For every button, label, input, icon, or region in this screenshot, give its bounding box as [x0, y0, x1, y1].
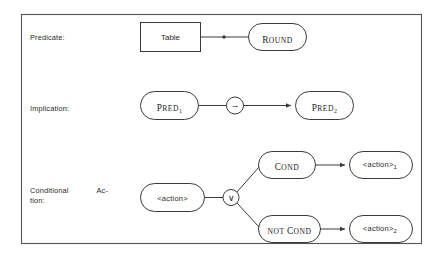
row-label-conditional-word1: Conditional [30, 186, 69, 196]
node-label-cond-cap: C [275, 162, 282, 172]
node-label-action-2: <action>2 [363, 224, 397, 234]
row-label-conditional-word3: tion: [30, 196, 114, 206]
node-label-action-2-text: <action> [363, 224, 394, 233]
edge-or-notcond [237, 203, 259, 227]
edge-marker-dot [222, 35, 225, 38]
node-label-not-cond: NOT COND [268, 220, 312, 238]
figure-container: Predicate: Implication: Conditional Ac- … [0, 0, 440, 258]
node-label-cond-rest: OND [281, 163, 299, 172]
node-label-round-rest: OUND [269, 36, 293, 45]
node-label-action-2-subscript: 2 [394, 228, 398, 234]
node-label-round: ROUND [262, 29, 293, 47]
node-label-round-cap: R [262, 35, 269, 45]
node-label-table: Table [161, 33, 180, 42]
row-label-conditional-action: Conditional Ac- tion: [30, 186, 114, 205]
node-label-pred1-subscript: 1 [179, 108, 182, 114]
implication-arrow-icon: → [231, 100, 240, 110]
node-label-pred1-rest: RED [162, 104, 179, 113]
row-label-conditional-word2: Ac- [96, 186, 108, 196]
diagram-canvas [0, 0, 440, 258]
node-label-pred2-subscript: 2 [334, 108, 337, 114]
node-label-pred1: PRED1 [157, 97, 183, 115]
figure-border [22, 15, 422, 244]
edge-or-cond [237, 167, 259, 192]
node-label-action-1-subscript: 1 [394, 164, 398, 170]
node-label-cond: COND [275, 156, 300, 174]
node-label-action-1: <action>1 [363, 160, 397, 170]
row-label-predicate: Predicate: [30, 33, 65, 43]
node-label-not-cond-rest: OND [294, 227, 312, 236]
row-label-implication: Implication: [30, 104, 69, 114]
node-label-pred2: PRED2 [312, 97, 338, 115]
node-label-not-cond-not: NOT [268, 227, 285, 236]
node-label-action: <action> [157, 193, 188, 202]
node-label-pred2-rest: RED [317, 104, 334, 113]
or-operator-icon: ∨ [228, 193, 235, 203]
node-label-action-1-text: <action> [363, 160, 394, 169]
